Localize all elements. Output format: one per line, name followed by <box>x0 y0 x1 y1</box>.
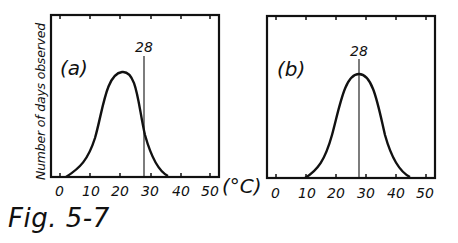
plot-frame-b <box>267 16 435 178</box>
x-axis-unit: (°C) <box>222 174 262 198</box>
distribution-curve-a <box>66 72 168 177</box>
panel-b: 28 (b) 0 10 20 30 40 50 <box>267 16 435 201</box>
panel-a: 28 (a) 0 10 20 30 40 50 <box>51 15 219 199</box>
panel-label-b: (b) <box>277 57 305 81</box>
svg-text:50: 50 <box>201 183 219 199</box>
svg-text:40: 40 <box>387 185 405 201</box>
y-axis-label: Number of days observed <box>33 23 48 180</box>
svg-text:0: 0 <box>271 185 280 201</box>
svg-text:30: 30 <box>357 185 375 201</box>
x-ticks-b <box>276 16 426 178</box>
reference-label-b: 28 <box>350 43 368 59</box>
svg-text:20: 20 <box>327 185 345 201</box>
svg-text:30: 30 <box>141 183 159 199</box>
panel-label-a: (a) <box>60 56 88 80</box>
x-tick-labels-b: 0 10 20 30 40 50 <box>271 185 434 201</box>
distribution-curve-b <box>305 74 410 178</box>
svg-text:50: 50 <box>416 185 434 201</box>
reference-label-a: 28 <box>135 39 153 55</box>
svg-text:0: 0 <box>55 183 64 199</box>
svg-text:10: 10 <box>82 183 100 199</box>
figure-caption: Fig. 5-7 <box>8 203 110 233</box>
x-tick-labels-a: 0 10 20 30 40 50 <box>55 183 219 199</box>
svg-text:10: 10 <box>298 185 316 201</box>
svg-text:20: 20 <box>111 183 129 199</box>
svg-text:40: 40 <box>172 183 190 199</box>
